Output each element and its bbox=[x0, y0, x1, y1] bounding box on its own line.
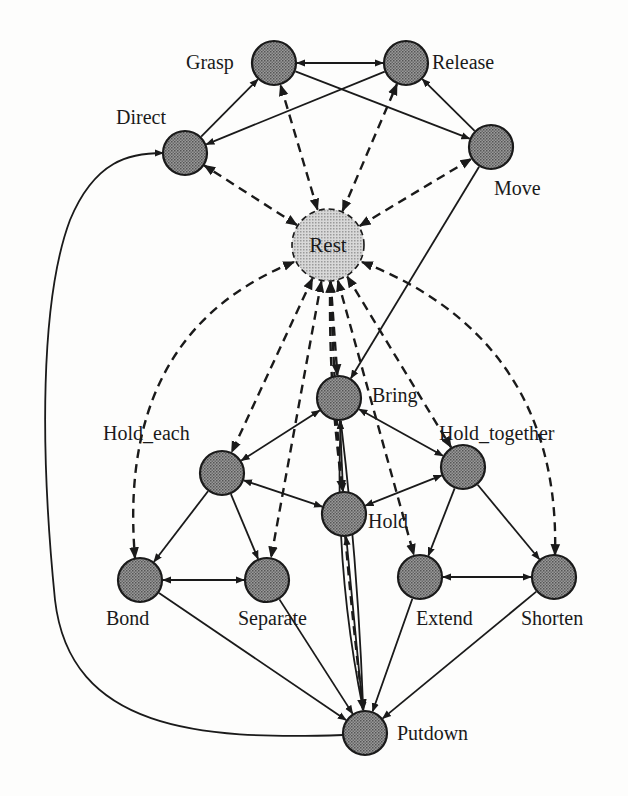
node-circle-hold bbox=[322, 492, 366, 536]
node-circle-bond bbox=[118, 558, 162, 602]
node-shorten: Shorten bbox=[521, 555, 583, 629]
node-label-bring: Bring bbox=[372, 384, 418, 407]
node-circle-separate bbox=[245, 558, 289, 602]
node-label-grasp: Grasp bbox=[186, 51, 234, 74]
edge-rest-to-direct bbox=[204, 165, 297, 225]
node-circle-direct bbox=[163, 131, 207, 175]
edge-putdown-to-bring bbox=[340, 421, 364, 710]
nodes-layer: GraspReleaseDirectMoveRestBringHold_each… bbox=[103, 41, 583, 755]
edge-rest-to-release bbox=[343, 84, 397, 211]
edge-bring-to-hold_together bbox=[359, 409, 443, 456]
edge-rest-to-hold_together bbox=[347, 277, 451, 448]
edge-hold_together-to-shorten bbox=[478, 485, 540, 560]
node-label-hold_each: Hold_each bbox=[103, 422, 190, 444]
node-circle-shorten bbox=[532, 555, 576, 599]
node-label-shorten: Shorten bbox=[521, 607, 583, 629]
edge-rest-to-grasp bbox=[281, 85, 318, 209]
node-putdown: Putdown bbox=[343, 711, 468, 755]
node-circle-release bbox=[384, 41, 428, 85]
edge-extend-to-putdown bbox=[373, 599, 413, 712]
edge-hold_each-to-separate bbox=[231, 494, 258, 559]
node-move: Move bbox=[469, 125, 541, 199]
node-circle-bring bbox=[317, 376, 361, 420]
node-hold_together: Hold_together bbox=[439, 422, 555, 489]
edge-grasp-to-move bbox=[295, 71, 469, 138]
edge-rest-to-hold_each bbox=[232, 279, 313, 453]
node-circle-grasp bbox=[252, 41, 296, 85]
edge-bring-to-putdown bbox=[341, 421, 363, 710]
edge-hold_together-to-extend bbox=[428, 488, 454, 555]
node-hold: Hold bbox=[322, 492, 408, 536]
node-label-extend: Extend bbox=[416, 607, 473, 629]
node-label-rest: Rest bbox=[309, 233, 347, 257]
node-circle-putdown bbox=[343, 711, 387, 755]
edge-move-to-bring bbox=[351, 167, 479, 379]
edge-hold_each-to-bond bbox=[154, 491, 208, 561]
node-release: Release bbox=[384, 41, 494, 85]
node-separate: Separate bbox=[238, 558, 307, 630]
edge-hold-to-hold_together bbox=[365, 475, 441, 505]
node-label-bond: Bond bbox=[106, 607, 149, 629]
edge-rest-to-bond bbox=[133, 262, 294, 558]
node-rest: Rest bbox=[292, 209, 364, 281]
node-circle-move bbox=[469, 125, 513, 169]
node-label-move: Move bbox=[494, 177, 541, 199]
edge-direct-to-grasp bbox=[201, 79, 258, 136]
edge-rest-to-separate bbox=[271, 281, 321, 557]
node-circle-hold_together bbox=[441, 445, 485, 489]
node-circle-hold_each bbox=[200, 451, 244, 495]
node-bond: Bond bbox=[106, 558, 162, 629]
graph-svg: GraspReleaseDirectMoveRestBringHold_each… bbox=[0, 0, 628, 796]
state-graph-diagram: GraspReleaseDirectMoveRestBringHold_each… bbox=[0, 0, 628, 796]
node-label-separate: Separate bbox=[238, 607, 307, 630]
node-label-hold_together: Hold_together bbox=[439, 422, 555, 445]
node-label-putdown: Putdown bbox=[397, 722, 468, 744]
node-circle-extend bbox=[398, 555, 442, 599]
edge-bring-to-hold_each bbox=[241, 410, 319, 460]
node-grasp: Grasp bbox=[186, 41, 296, 85]
node-extend: Extend bbox=[398, 555, 473, 629]
edge-rest-to-move bbox=[360, 159, 472, 226]
node-label-release: Release bbox=[432, 51, 494, 73]
node-hold_each: Hold_each bbox=[103, 422, 244, 495]
node-label-direct: Direct bbox=[116, 106, 166, 128]
node-direct: Direct bbox=[116, 106, 207, 175]
node-label-hold: Hold bbox=[368, 510, 408, 532]
